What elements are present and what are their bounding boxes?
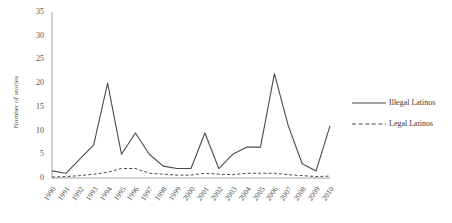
series-line-illegal-latinos: [52, 74, 330, 174]
plot-area: [0, 0, 452, 223]
legend-label-legal-latinos: Legal Latinos: [389, 119, 433, 128]
series-line-legal-latinos: [52, 169, 330, 178]
legend-label-illegal-latinos: Illegal Latinos: [389, 98, 435, 107]
axis-lines: [52, 12, 330, 178]
series-paths: [52, 74, 330, 177]
line-chart-figure: Number of stories 05101520253035 1990199…: [0, 0, 452, 223]
legend-marks: [352, 103, 386, 124]
